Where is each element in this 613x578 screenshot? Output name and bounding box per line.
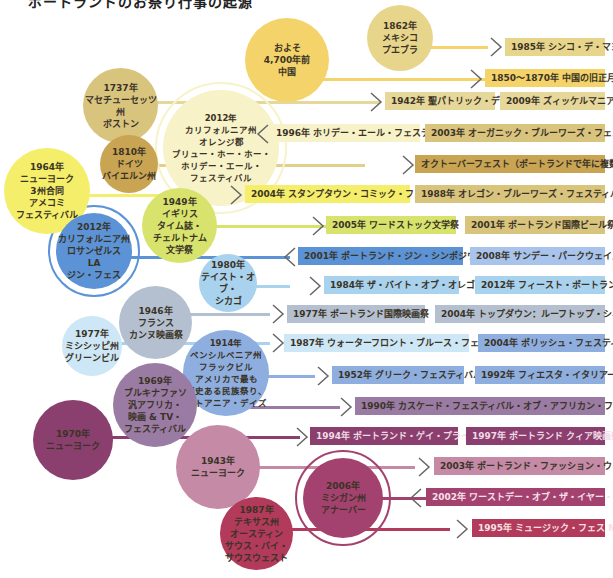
event-label: 2005年 ワードストック文学祭 [326,216,456,234]
event-label: 1996年 ホリデー・エール・フェスティバル [270,124,420,142]
arrow-left-icon [408,486,424,510]
arrow-right-icon [368,90,384,114]
arrow-right-icon [416,455,432,479]
origin-circle-burkina: 1969年 ブルキナファソ 汎アフリカ・ 映画 & TV・ フェスティバル [113,363,197,447]
event-label: 1988年 オレゴン・ブルーワーズ・フェスティバル [415,185,605,203]
arrow-left-icon [255,122,271,146]
event-label: 2002年 ワーストデー・オブ・ザ・イヤー・ライド [426,488,605,506]
origin-circle-mississippi: 1977年 ミシシッピ州 グリーンビル [62,316,122,376]
arrow-right-icon [310,214,326,238]
arrow-right-icon [294,425,310,449]
event-label: 2009年 ズィッケルマニア [500,92,605,110]
origin-circle-boston: 1737年 マセチューセッツ州 ボストン [83,68,158,143]
arrow-left-icon [282,245,298,269]
event-label: 2004年 トップダウン：ルーフトップ・シネマ [435,305,605,323]
arrow-right-icon [228,183,244,207]
arrow-right-icon [315,364,331,388]
event-label: 1985年 シンコ・デ・マヨ [505,38,605,56]
event-label: 1984年 ザ・バイト・オブ・オレゴン [324,276,459,294]
arrow-right-icon [454,517,470,541]
event-label: 1995年 ミュージック・フェス NW [472,519,605,537]
event-label: 1990年 カスケード・フェスティバル・オブ・アフリカン・フィルムス [355,397,605,415]
origin-circle-uk: 1949年 イギリス タイム誌・ チェルトナム 文学祭 [142,188,217,263]
arrow-right-icon [468,67,484,91]
origin-circle-ny1970: 1970年 ニューヨーク [33,400,113,480]
arrow-right-icon [270,302,286,326]
event-label: 2004年 スタンプタウン・コミック・フェス [245,185,410,203]
arrow-right-icon [400,153,416,177]
event-label: 2012年 フィースト・ポートランド [475,276,605,294]
arrow-right-icon [488,35,504,59]
arrow-right-icon [307,274,323,298]
event-label: 2001年 ポートランド・ジン・シンポジウム [298,247,463,265]
origin-circle-la: 2012年 カリフォルニア州 ロサンゼルス LA ジン・フェス [56,213,132,289]
event-label: 2004年 ポリッシュ・フェスティバル [478,334,605,352]
origin-circle-chicago: 1980年 テイスト・オブ・ シカゴ [199,254,257,312]
origin-circle-china: およそ 4,700年前 中国 [245,18,329,102]
event-label: 2008年 サンデー・パークウェイズ [470,247,605,265]
origin-circle-michigan: 2006年 ミシガン州 アナーバー [303,458,383,538]
event-label: 1942年 聖パトリック・デー [385,92,495,110]
event-label: 2001年 ポートランド国際ビール祭 [465,216,605,234]
event-label: 1992年 フィエスタ・イタリアーナ [475,366,605,384]
event-label: 1994年 ポートランド・ゲイ・プライド [310,427,458,445]
diagram-title: ポートランドのお祭り行事の起源 [28,0,253,11]
origin-circle-cannes: 1946年 フランス カンヌ映画祭 [119,286,192,359]
arrow-right-icon [338,395,354,419]
event-label: 1977年 ポートランド国際映画祭 [287,305,425,323]
origin-circle-austin: 1987年 テキサス州 オースティン サウス・バイ・ サウスウェスト [220,497,293,570]
event-label: 2003年 オーガニック・ブルーワーズ・フェスティバル [425,124,605,142]
event-label: 1997年 ポートランド クィア映画祭 [466,427,605,445]
event-label: オクトーバーフェスト（ポートランドで年に複数回） [415,155,605,173]
event-label: 1952年 グリーク・フェスティバル [332,366,464,384]
origin-circle-ny1943: 1943年 ニューヨーク [176,425,260,509]
event-label: 1987年 ウォーターフロント・ブルース・フェスティバル [284,334,469,352]
origin-circle-germany: 1810年 ドイツ バイエルン州 [100,135,158,193]
event-label: 1850～1870年 中国の旧正月 [485,69,605,87]
origin-circle-mexico: 1862年 メキシコ プエブラ [367,5,433,71]
event-label: 2003年 ポートランド・ファッション・ウィーク [434,457,605,475]
